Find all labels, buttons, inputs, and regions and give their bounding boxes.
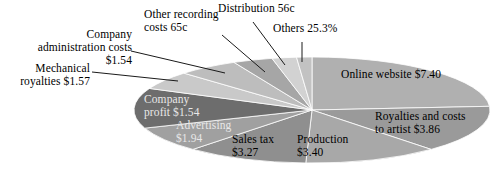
- callout-others: Others 25.3%: [273, 22, 363, 35]
- slice-label-online-website: Online website $7.40: [341, 68, 481, 81]
- slice-label-production: Production $3.40: [297, 133, 375, 159]
- leader-line-company-administration-costs: [131, 51, 225, 73]
- slice-label-company-profit: Company profit $1.54: [144, 93, 230, 119]
- pie-chart-figure: Company administration costs $1.54 Mecha…: [0, 0, 497, 177]
- callout-mechanical-royalties: Mechanical royalties $1.57: [6, 62, 90, 88]
- pie-slice-online-website: [312, 57, 490, 110]
- slice-label-advertising: Advertising $1.94: [176, 119, 260, 145]
- leader-line-mechanical-royalties: [92, 72, 178, 81]
- callout-distribution: Distribution 56c: [218, 2, 328, 15]
- slice-label-royalties-and-costs-to-artist: Royalties and costs to artist $3.86: [375, 110, 495, 136]
